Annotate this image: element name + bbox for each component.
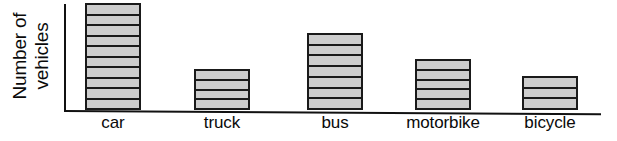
- bar-segment: [196, 100, 248, 108]
- bar-segment: [309, 78, 361, 89]
- bar-segment: [309, 67, 361, 78]
- bar-segment: [524, 89, 576, 100]
- bar-segment: [196, 71, 248, 81]
- bar-segment: [417, 100, 469, 108]
- bar-segment: [87, 89, 139, 100]
- bar-segment: [87, 79, 139, 90]
- bar-segment: [417, 90, 469, 100]
- bar-bicycle: [522, 76, 578, 110]
- bar-segment: [524, 99, 576, 108]
- bar-segment: [524, 78, 576, 89]
- bar-segment: [87, 37, 139, 48]
- bar-segment: [87, 16, 139, 27]
- bar-chart: Number of vehicles cartruckbusmotorbikeb…: [0, 0, 617, 141]
- bar-segment: [417, 61, 469, 71]
- bar-segment: [309, 35, 361, 46]
- bar-segment: [417, 71, 469, 81]
- bar-segment: [417, 81, 469, 91]
- x-tick-label-motorbike: motorbike: [383, 113, 503, 133]
- bar-segment: [87, 5, 139, 16]
- bar-segment: [196, 81, 248, 91]
- bar-truck: [194, 69, 250, 110]
- bar-segment: [309, 56, 361, 67]
- bar-segment: [309, 99, 361, 108]
- plot-area: cartruckbusmotorbikebicycle: [0, 0, 617, 141]
- bar-segment: [87, 100, 139, 109]
- x-tick-label-truck: truck: [162, 113, 282, 133]
- bar-segment: [87, 68, 139, 79]
- x-tick-label-car: car: [53, 113, 173, 133]
- x-tick-label-bicycle: bicycle: [490, 113, 610, 133]
- bar-car: [85, 3, 141, 110]
- bar-segment: [196, 91, 248, 101]
- bar-segment: [87, 26, 139, 37]
- bar-segment: [309, 46, 361, 57]
- bar-motorbike: [415, 59, 471, 110]
- bar-bus: [307, 33, 363, 110]
- x-tick-label-bus: bus: [275, 113, 395, 133]
- bar-segment: [87, 58, 139, 69]
- bar-segment: [87, 47, 139, 58]
- bar-segment: [309, 89, 361, 100]
